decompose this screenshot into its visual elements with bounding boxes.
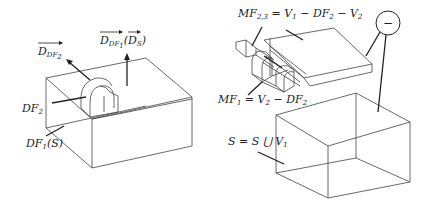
- slot-pieces: [236, 38, 294, 92]
- minus-operator: −: [366, 11, 400, 112]
- label-df1s: DF1(S): [25, 137, 63, 151]
- half-cylinder-feature: [81, 78, 192, 119]
- label-d-df1-ds: DDF1(DS): [99, 30, 146, 50]
- label-mf23: MF2,3 = V1 − DF2 − V2: [237, 7, 363, 21]
- leader-s: [258, 152, 284, 164]
- label-d-df2: DDF2: [37, 41, 63, 61]
- arrow-d-df1: [124, 53, 130, 86]
- label-s-union: S = S ⋃ V1: [228, 135, 288, 149]
- leader-mf23-slot: [252, 27, 262, 46]
- label-mf1: MF1 = V2 − DF2: [217, 93, 308, 107]
- label-df2: DF2: [21, 102, 43, 116]
- svg-text:DDF2: DDF2: [37, 45, 62, 61]
- left-box: [46, 58, 192, 168]
- upper-tray: [262, 28, 372, 86]
- leader-mf23: [286, 30, 303, 40]
- svg-text:DDF1(DS): DDF1(DS): [99, 34, 146, 50]
- arrow-d-df2: [66, 59, 90, 80]
- diagram-canvas: DDF2 DDF1(DS) DF2 DF1(S): [0, 0, 421, 208]
- lower-box: [276, 93, 410, 198]
- minus-icon: −: [383, 16, 393, 30]
